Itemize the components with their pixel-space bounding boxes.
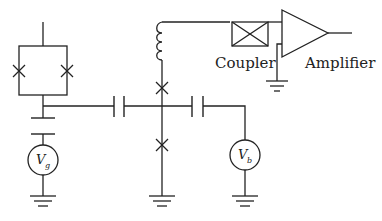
amplifier-icon bbox=[282, 10, 352, 57]
ground-icon-center bbox=[149, 196, 175, 206]
gate-voltage-source: V g bbox=[28, 145, 58, 196]
gate-voltage-subscript: g bbox=[45, 161, 50, 170]
gate-capacitor-icon bbox=[31, 118, 55, 145]
ground-icon-bias bbox=[232, 196, 258, 206]
bias-voltage-source: V b bbox=[230, 140, 260, 196]
amplifier-label: Amplifier bbox=[304, 54, 376, 72]
ground-icon-gate bbox=[30, 196, 56, 206]
bias-voltage-subscript: b bbox=[247, 156, 252, 165]
ground-icon-coupler bbox=[266, 81, 288, 91]
inductor-icon bbox=[157, 22, 162, 60]
coupler-icon bbox=[232, 22, 268, 46]
coupler-label: Coupler bbox=[215, 54, 276, 72]
coupling-capacitor-right-icon bbox=[192, 96, 203, 117]
circuit-diagram: V g V b bbox=[0, 0, 382, 221]
squid-loop bbox=[13, 22, 73, 118]
coupling-capacitor-left-icon bbox=[114, 96, 124, 117]
